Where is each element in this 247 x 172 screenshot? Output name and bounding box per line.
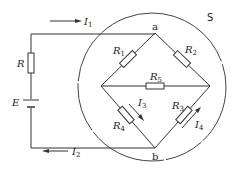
resistor-r3-label: R3 <box>171 100 184 113</box>
current-i3-label: I3 <box>137 97 146 110</box>
node-b-label: b <box>152 151 158 162</box>
current-i4-label: I4 <box>194 119 204 132</box>
circuit-diagram: S R E I1 I2 R1 R2 R5 R4 R3 I3 I4 <box>0 0 247 172</box>
resistor-r <box>28 53 34 73</box>
resistor-r-label: R <box>16 58 25 69</box>
resistor-r4-label: R4 <box>112 120 126 133</box>
resistor-r5-label: R5 <box>149 71 162 84</box>
node-a-label: a <box>152 21 158 32</box>
arrowhead-icon <box>75 19 82 23</box>
surface-label: S <box>207 12 213 23</box>
resistor-r1-label: R1 <box>112 45 125 58</box>
arrowhead-icon <box>42 149 49 153</box>
battery-e-label: E <box>11 97 20 108</box>
current-i1-label: I1 <box>83 16 92 29</box>
resistor-r2-label: R2 <box>184 44 197 57</box>
